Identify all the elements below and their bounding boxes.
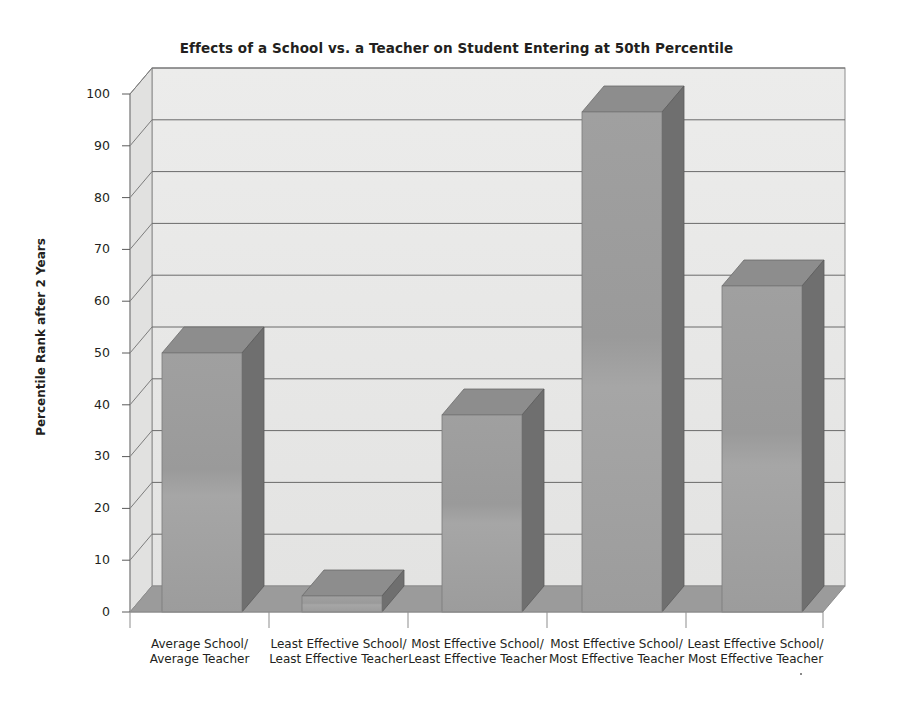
- chart-figure: Effects of a School vs. a Teacher on Stu…: [0, 0, 913, 710]
- bar-4-front: [582, 112, 662, 612]
- y-tick-label-30: 30: [66, 448, 110, 463]
- bar-1-front: [162, 353, 242, 612]
- x-tick-label-4: Most Effective School/ Most Effective Te…: [547, 637, 686, 667]
- y-tick-label-80: 80: [66, 190, 110, 205]
- y-tick-label-90: 90: [66, 138, 110, 153]
- scan-artifact: [800, 673, 802, 675]
- bar-column-1[interactable]: [162, 327, 264, 612]
- x-tick-label-3: Most Effective School/ Least Effective T…: [408, 637, 547, 667]
- y-tick-marks: [122, 94, 130, 612]
- bar-3-side: [522, 389, 544, 612]
- x-tick-label-1: Average School/ Average Teacher: [130, 637, 269, 667]
- x-tick-label-5: Least Effective School/ Most Effective T…: [686, 637, 825, 667]
- y-tick-label-0: 0: [66, 604, 110, 619]
- bar-2-front: [302, 596, 382, 612]
- chart-svg: [0, 0, 913, 710]
- bar-1-side: [242, 327, 264, 612]
- y-tick-label-50: 50: [66, 345, 110, 360]
- y-tick-label-10: 10: [66, 552, 110, 567]
- bar-4-side: [662, 86, 684, 612]
- bar-5-front: [722, 286, 802, 612]
- plot-area: [0, 0, 913, 710]
- y-tick-label-20: 20: [66, 500, 110, 515]
- x-tick-label-2: Least Effective School/ Least Effective …: [269, 637, 408, 667]
- y-tick-label-100: 100: [66, 86, 110, 101]
- y-tick-label-60: 60: [66, 293, 110, 308]
- bar-column-5[interactable]: [722, 260, 824, 612]
- y-tick-label-70: 70: [66, 241, 110, 256]
- bar-column-4[interactable]: [582, 86, 684, 612]
- bar-5-side: [802, 260, 824, 612]
- bar-column-3[interactable]: [442, 389, 544, 612]
- bar-3-front: [442, 415, 522, 612]
- y-tick-label-40: 40: [66, 397, 110, 412]
- x-tick-marks: [130, 612, 823, 628]
